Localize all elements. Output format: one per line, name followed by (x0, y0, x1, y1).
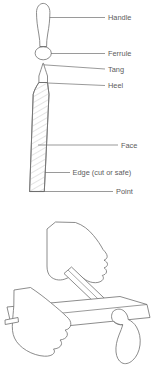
leader-tang (44, 65, 106, 69)
file-blade-shape (30, 83, 49, 192)
two-hands-filing-workpiece (5, 222, 150, 364)
label-heel: Heel (108, 81, 124, 90)
handle-shape (37, 3, 50, 46)
figure-canvas: Handle Ferrule Tang Heel Face Edge (cut … (0, 0, 161, 373)
file-parts-figure: Handle Ferrule Tang Heel Face Edge (cut … (0, 0, 161, 373)
leader-heel (48, 83, 105, 86)
ferrule-shape (35, 47, 51, 60)
label-point: Point (116, 187, 133, 196)
tang-shape (39, 63, 48, 82)
label-handle: Handle (108, 13, 131, 22)
label-tang: Tang (108, 65, 124, 74)
lower-fist (12, 288, 71, 357)
label-edge: Edge (cut or safe) (73, 168, 132, 177)
label-ferrule: Ferrule (108, 49, 131, 58)
label-face: Face (121, 141, 137, 150)
